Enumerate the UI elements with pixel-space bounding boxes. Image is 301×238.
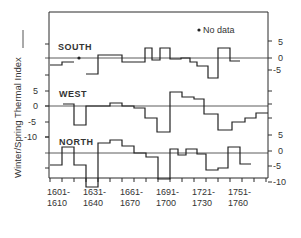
- x-label-1601: 1601-: [47, 187, 70, 197]
- north-label: NORTH: [59, 137, 94, 147]
- x-label-1730: 1730: [192, 198, 212, 208]
- west-tick-neg10: -10: [24, 132, 37, 142]
- thermal-index-chart: 1601- 1610 1631- 1640 1661- 1670 1691- 1…: [0, 0, 301, 238]
- x-label-1670: 1670: [120, 198, 140, 208]
- west-tick-neg5: -5: [28, 117, 36, 127]
- south-series: [50, 62, 74, 65]
- north-tick-0: 0: [278, 146, 283, 156]
- south-label: SOUTH: [58, 42, 92, 52]
- x-label-1721: 1721-: [192, 187, 215, 197]
- x-label-1631: 1631-: [83, 187, 106, 197]
- x-label-1661: 1661-: [120, 187, 143, 197]
- panel-south: SOUTH 5 0 -5: [45, 37, 283, 78]
- legend-no-data: No data: [203, 25, 235, 35]
- panel-west: WEST 5 0 -5 -10: [24, 86, 272, 142]
- south-tick-0: 0: [278, 53, 283, 63]
- x-label-1760: 1760: [228, 198, 248, 208]
- west-tick-5: 5: [33, 86, 38, 96]
- x-label-1610: 1610: [47, 198, 67, 208]
- north-tick-5: 5: [278, 130, 283, 140]
- x-label-1700: 1700: [156, 198, 176, 208]
- north-tick-neg10: -10: [273, 177, 286, 187]
- x-label-1751: 1751-: [228, 187, 251, 197]
- x-axis-labels: 1601- 1610 1631- 1640 1661- 1670 1691- 1…: [47, 187, 251, 208]
- north-tick-neg5: -5: [273, 161, 281, 171]
- south-tick-neg5: -5: [273, 65, 281, 75]
- x-label-1691: 1691-: [156, 187, 179, 197]
- west-series: [63, 92, 268, 132]
- west-label: WEST: [59, 89, 87, 99]
- no-data-dot-icon: [197, 28, 200, 31]
- y-axis-label: Winter/Spring Thermal Index: [12, 57, 23, 178]
- west-tick-0: 0: [33, 101, 38, 111]
- x-label-1640: 1640: [83, 198, 103, 208]
- south-tick-5: 5: [278, 37, 283, 47]
- south-no-data-dot-icon: [77, 56, 80, 59]
- north-series: [50, 140, 251, 187]
